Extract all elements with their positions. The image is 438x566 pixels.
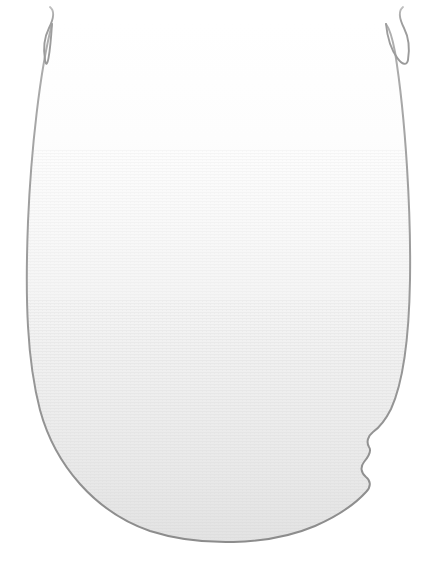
figure-root: Specimen outline illustration xyxy=(0,0,438,566)
specimen-illustration: Specimen outline illustration xyxy=(0,0,438,566)
